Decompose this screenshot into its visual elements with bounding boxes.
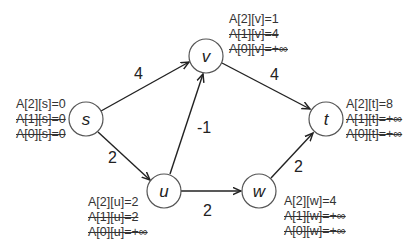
annotation-w-a1: A[1][w]=+∞: [284, 209, 346, 224]
graph-diagram: 4 2 -1 2 4 2 s v u w t A[2][s]=0 A[1][s]…: [0, 0, 418, 248]
node-u: u: [147, 174, 181, 208]
annotation-u-a1: A[1][u]=2: [88, 210, 148, 225]
annotation-w-a2: A[2][w]=4: [284, 194, 346, 209]
annotation-w-a0: A[0][w]=+∞: [284, 224, 346, 239]
node-s: s: [69, 102, 103, 136]
weight-u-v: -1: [197, 119, 211, 136]
annotation-s-a1: A[1][s]=0: [16, 112, 66, 127]
weight-w-t: 2: [294, 158, 303, 175]
weight-s-v: 4: [134, 65, 143, 82]
annotation-v: A[2][v]=1 A[1][v]=4 A[0][v]=+∞: [229, 12, 288, 57]
svg-text:w: w: [253, 182, 267, 201]
weight-u-w: 2: [203, 202, 212, 219]
annotation-t: A[2][t]=8 A[1][t]=+∞ A[0][t]=+∞: [346, 97, 402, 142]
annotation-t-a0: A[0][t]=+∞: [346, 127, 402, 142]
edge-w-t: [271, 133, 313, 178]
svg-text:s: s: [82, 110, 91, 129]
annotation-u: A[2][u]=2 A[1][u]=2 A[0][u]=+∞: [88, 195, 148, 240]
annotation-t-a1: A[1][t]=+∞: [346, 112, 402, 127]
svg-text:u: u: [159, 182, 169, 201]
edge-v-t: [222, 63, 310, 109]
annotation-u-a2: A[2][u]=2: [88, 195, 148, 210]
annotation-v-a0: A[0][v]=+∞: [229, 42, 288, 57]
edge-s-v: [101, 62, 189, 111]
annotation-s-a2: A[2][s]=0: [16, 97, 66, 112]
annotation-w: A[2][w]=4 A[1][w]=+∞ A[0][w]=+∞: [284, 194, 346, 239]
node-w: w: [242, 174, 276, 208]
annotation-s: A[2][s]=0 A[1][s]=0 A[0][s]=0: [16, 97, 66, 142]
annotation-v-a2: A[2][v]=1: [229, 12, 288, 27]
node-t: t: [309, 102, 343, 136]
weight-v-t: 4: [270, 66, 279, 83]
annotation-s-a0: A[0][s]=0: [16, 127, 66, 142]
annotation-t-a2: A[2][t]=8: [346, 97, 402, 112]
annotation-u-a0: A[0][u]=+∞: [88, 225, 148, 240]
node-v: v: [189, 39, 223, 73]
edge-s-u: [98, 132, 150, 180]
weight-s-u: 2: [108, 149, 117, 166]
annotation-v-a1: A[1][v]=4: [229, 27, 288, 42]
